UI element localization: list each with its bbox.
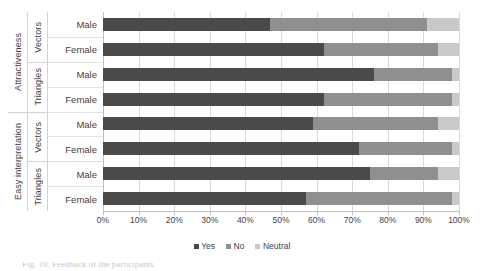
stacked-bar-chart: AttractivenessEasy interpretation Vector… bbox=[0, 0, 484, 271]
legend-label: Yes bbox=[201, 241, 215, 251]
figure-caption: Fig. 10. Feedback of the participants bbox=[22, 262, 322, 271]
legend-label: No bbox=[234, 241, 245, 251]
category-subgroup-vectors: Vectors bbox=[28, 12, 48, 62]
category-item-female: Female bbox=[48, 136, 103, 161]
bar-segment-neutral bbox=[452, 68, 459, 81]
bar-segment-neutral bbox=[452, 192, 459, 205]
legend-item-neutral[interactable]: Neutral bbox=[255, 241, 290, 251]
legend-item-no[interactable]: No bbox=[226, 241, 244, 251]
bar-segment-yes bbox=[103, 167, 370, 180]
bar-row bbox=[103, 117, 459, 130]
category-subgroup-label: Triangles bbox=[33, 168, 43, 206]
category-subgroup-label: Vectors bbox=[33, 122, 43, 153]
tick-label-40: 40% bbox=[237, 215, 254, 225]
bar-segment-no bbox=[270, 18, 427, 31]
category-group-easy-interpretation: Easy interpretation bbox=[8, 112, 28, 212]
category-axis: AttractivenessEasy interpretation Vector… bbox=[8, 12, 103, 211]
bar-segment-yes bbox=[103, 93, 324, 106]
category-item-male: Male bbox=[48, 12, 103, 37]
bar-segment-no bbox=[374, 68, 452, 81]
bar-segment-yes bbox=[103, 192, 306, 205]
category-subgroup-vectors: Vectors bbox=[28, 112, 48, 162]
category-item-male: Male bbox=[48, 161, 103, 186]
bar-segment-neutral bbox=[452, 142, 459, 155]
tick-label-70: 70% bbox=[344, 215, 361, 225]
category-item-label: Male bbox=[76, 19, 97, 30]
category-item-label: Female bbox=[65, 44, 97, 55]
bar-row bbox=[103, 68, 459, 81]
bar-segment-yes bbox=[103, 68, 374, 81]
category-subgroup-triangles: Triangles bbox=[28, 161, 48, 211]
plot-area bbox=[103, 12, 459, 211]
bar-segment-yes bbox=[103, 117, 313, 130]
bar-segment-yes bbox=[103, 18, 270, 31]
tick-label-30: 30% bbox=[201, 215, 218, 225]
tick-label-10: 10% bbox=[130, 215, 147, 225]
category-item-female: Female bbox=[48, 87, 103, 112]
bar-segment-neutral bbox=[452, 93, 459, 106]
category-axis-level-outer: AttractivenessEasy interpretation bbox=[8, 12, 28, 211]
category-subgroup-triangles: Triangles bbox=[28, 62, 48, 112]
bar-segment-no bbox=[359, 142, 452, 155]
bar-segment-yes bbox=[103, 142, 359, 155]
category-item-label: Female bbox=[65, 194, 97, 205]
category-item-label: Male bbox=[76, 169, 97, 180]
category-item-label: Female bbox=[65, 144, 97, 155]
legend-swatch-yes bbox=[194, 244, 199, 249]
bar-segment-no bbox=[370, 167, 438, 180]
category-item-female: Female bbox=[48, 186, 103, 211]
category-item-male: Male bbox=[48, 62, 103, 87]
value-axis-tick-labels: 0%10%20%30%40%50%60%70%80%90%100% bbox=[103, 215, 459, 229]
tick-label-20: 20% bbox=[166, 215, 183, 225]
bar-row bbox=[103, 18, 459, 31]
category-item-label: Male bbox=[76, 69, 97, 80]
category-group-label: Attractiveness bbox=[13, 33, 23, 91]
tick-label-100: 100% bbox=[448, 215, 470, 225]
tick-label-50: 50% bbox=[272, 215, 289, 225]
figure-caption-text: Fig. 10. Feedback of the participants bbox=[22, 262, 154, 269]
category-group-label: Easy interpretation bbox=[13, 123, 23, 200]
chart-legend: YesNoNeutral bbox=[0, 241, 484, 251]
legend-item-yes[interactable]: Yes bbox=[194, 241, 215, 251]
category-item-female: Female bbox=[48, 37, 103, 62]
bar-segment-yes bbox=[103, 43, 324, 56]
tick-label-80: 80% bbox=[379, 215, 396, 225]
bar-row bbox=[103, 93, 459, 106]
gridline-100 bbox=[459, 12, 460, 211]
bar-segment-no bbox=[306, 192, 452, 205]
category-subgroup-label: Vectors bbox=[33, 22, 43, 53]
bar-segment-no bbox=[324, 93, 452, 106]
bar-series-container bbox=[103, 12, 459, 211]
bar-row bbox=[103, 192, 459, 205]
category-group-attractiveness: Attractiveness bbox=[8, 12, 28, 112]
category-axis-level-middle: VectorsTrianglesVectorsTriangles bbox=[28, 12, 48, 211]
category-item-male: Male bbox=[48, 112, 103, 137]
bar-segment-neutral bbox=[438, 167, 459, 180]
bar-segment-neutral bbox=[438, 43, 459, 56]
bar-row bbox=[103, 43, 459, 56]
category-axis-level-inner: MaleFemaleMaleFemaleMaleFemaleMaleFemale bbox=[48, 12, 103, 211]
legend-swatch-no bbox=[226, 244, 231, 249]
category-item-label: Male bbox=[76, 119, 97, 130]
bar-segment-neutral bbox=[438, 117, 459, 130]
tick-label-90: 90% bbox=[415, 215, 432, 225]
bar-segment-no bbox=[324, 43, 438, 56]
tick-label-0: 0% bbox=[97, 215, 109, 225]
bar-row bbox=[103, 167, 459, 180]
bar-row bbox=[103, 142, 459, 155]
category-subgroup-label: Triangles bbox=[33, 68, 43, 106]
tick-label-60: 60% bbox=[308, 215, 325, 225]
bar-segment-no bbox=[313, 117, 438, 130]
bar-segment-neutral bbox=[427, 18, 459, 31]
category-item-label: Female bbox=[65, 94, 97, 105]
legend-swatch-neutral bbox=[255, 244, 260, 249]
legend-label: Neutral bbox=[263, 241, 290, 251]
